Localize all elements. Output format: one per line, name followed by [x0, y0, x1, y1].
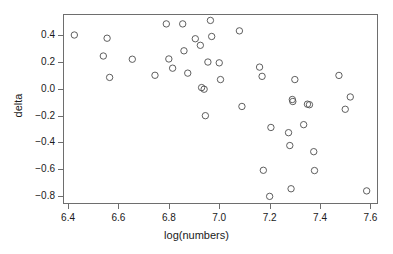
x-tick-label: 6.4 — [61, 213, 75, 223]
x-tick-mark — [68, 204, 69, 209]
y-tick-label: −0.6 — [17, 164, 55, 174]
y-tick-mark — [58, 196, 63, 197]
x-axis-label: log(numbers) — [0, 230, 393, 241]
y-tick-label: 0.4 — [17, 30, 55, 40]
x-tick-label: 7.4 — [313, 213, 327, 223]
x-tick-mark — [320, 204, 321, 209]
y-tick-mark — [58, 35, 63, 36]
x-tick-mark — [118, 204, 119, 209]
y-tick-mark — [58, 89, 63, 90]
y-tick-label: −0.8 — [17, 191, 55, 201]
x-tick-mark — [219, 204, 220, 209]
x-tick-label: 7.0 — [212, 213, 226, 223]
x-tick-mark — [370, 204, 371, 209]
y-axis-label: delta — [13, 76, 24, 136]
x-tick-label: 7.2 — [263, 213, 277, 223]
y-tick-mark — [58, 62, 63, 63]
x-tick-label: 6.8 — [162, 213, 176, 223]
y-tick-label: −0.4 — [17, 137, 55, 147]
y-tick-mark — [58, 116, 63, 117]
x-tick-mark — [270, 204, 271, 209]
y-tick-mark — [58, 142, 63, 143]
x-tick-mark — [169, 204, 170, 209]
x-tick-label: 7.6 — [363, 213, 377, 223]
plot-frame — [63, 14, 378, 204]
scatter-plot-figure: 6.46.66.87.07.27.47.6 0.40.20.0−0.2−0.4−… — [0, 0, 393, 254]
y-tick-label: 0.2 — [17, 57, 55, 67]
y-tick-mark — [58, 169, 63, 170]
x-tick-label: 6.6 — [111, 213, 125, 223]
